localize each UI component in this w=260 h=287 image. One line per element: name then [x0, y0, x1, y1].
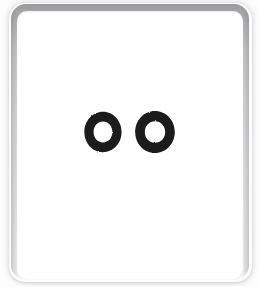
scene-root: [0, 0, 260, 287]
card-white-face: [17, 11, 243, 279]
